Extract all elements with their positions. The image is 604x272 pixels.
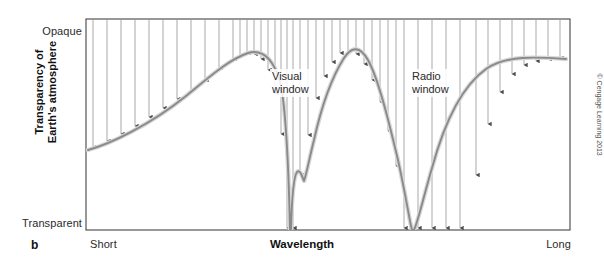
- x-axis-title: Wavelength: [0, 238, 604, 250]
- transparency-curve-plot: [0, 0, 604, 272]
- plot-frame: [86, 19, 570, 230]
- y-axis-bottom-label: Transparent: [2, 217, 82, 229]
- radio-window-annotation: Radio window: [410, 69, 451, 97]
- radio-window-line2: window: [412, 83, 449, 95]
- visual-window-annotation: Visual window: [270, 69, 311, 97]
- radio-window-line1: Radio: [412, 70, 441, 82]
- y-axis-title-line2: Earth's atmosphere: [46, 0, 59, 187]
- copyright-credit: © Cengage Learning 2013: [596, 74, 603, 214]
- visual-window-line2: window: [272, 83, 309, 95]
- y-axis-title: Transparency of Earth's atmosphere: [33, 0, 63, 187]
- visual-window-line1: Visual: [272, 70, 302, 82]
- y-axis-title-line1: Transparency of: [33, 0, 46, 187]
- panel-letter: b: [31, 238, 38, 252]
- atmospheric-transparency-figure: Opaque Transparent Transparency of Earth…: [0, 0, 604, 272]
